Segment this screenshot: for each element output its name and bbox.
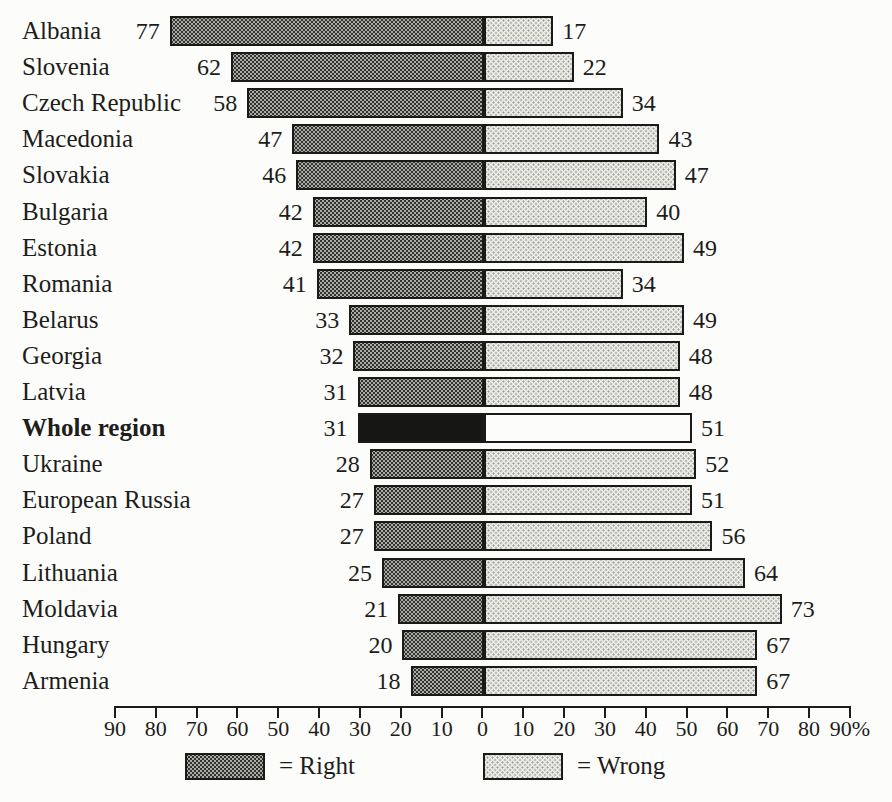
category-label: Georgia — [22, 341, 102, 371]
right-value: 47 — [685, 160, 709, 190]
legend-wrong-label: = Wrong — [577, 752, 665, 780]
left-bar — [398, 594, 484, 624]
category-label: Belarus — [22, 305, 98, 335]
right-value: 67 — [766, 666, 790, 696]
left-value: 31 — [278, 377, 348, 407]
right-value: 48 — [689, 377, 713, 407]
left-value: 42 — [233, 233, 303, 263]
legend-item-wrong: = Wrong — [483, 752, 665, 780]
left-bar — [170, 16, 484, 46]
left-bar — [349, 305, 484, 335]
right-value: 64 — [754, 558, 778, 588]
left-value: 27 — [294, 521, 364, 551]
left-value: 77 — [90, 16, 160, 46]
left-value: 41 — [237, 269, 307, 299]
category-label: Moldavia — [22, 594, 118, 624]
left-bar — [292, 124, 484, 154]
left-value: 62 — [151, 52, 221, 82]
category-label: Bulgaria — [22, 197, 108, 227]
category-label: Lithuania — [22, 558, 118, 588]
left-value: 33 — [269, 305, 339, 335]
right-bar — [484, 594, 782, 624]
legend-item-right: = Right — [185, 752, 355, 780]
right-bar — [484, 377, 680, 407]
legend-wrong-swatch — [483, 753, 563, 780]
left-bar — [353, 341, 484, 371]
left-bar — [231, 52, 484, 82]
left-value: 25 — [302, 558, 372, 588]
category-label: Macedonia — [22, 124, 133, 154]
legend-right-swatch — [185, 753, 265, 780]
left-value: 20 — [322, 630, 392, 660]
left-bar — [374, 485, 484, 515]
right-bar — [484, 233, 684, 263]
right-bar — [484, 52, 574, 82]
left-value: 21 — [318, 594, 388, 624]
right-bar — [484, 666, 757, 696]
right-value: 43 — [668, 124, 692, 154]
left-bar — [402, 630, 484, 660]
left-bar — [247, 88, 484, 118]
left-bar — [374, 521, 484, 551]
category-label: Romania — [22, 269, 112, 299]
left-bar — [313, 197, 484, 227]
category-label: European Russia — [22, 485, 191, 515]
right-bar — [484, 413, 692, 443]
diverging-bar-chart: Albania7717Slovenia6222Czech Republic583… — [0, 0, 892, 802]
left-bar — [411, 666, 484, 696]
right-value: 49 — [693, 305, 717, 335]
left-bar — [382, 558, 484, 588]
right-value: 34 — [632, 88, 656, 118]
right-value: 56 — [721, 521, 745, 551]
left-value: 46 — [216, 160, 286, 190]
right-bar — [484, 197, 647, 227]
left-value: 47 — [212, 124, 282, 154]
right-bar — [484, 341, 680, 371]
left-value: 58 — [167, 88, 237, 118]
left-value: 42 — [233, 197, 303, 227]
left-bar — [358, 377, 484, 407]
category-label: Czech Republic — [22, 88, 181, 118]
right-bar — [484, 558, 745, 588]
right-bar — [484, 88, 623, 118]
right-value: 51 — [701, 485, 725, 515]
right-value: 40 — [656, 197, 680, 227]
right-bar — [484, 269, 623, 299]
right-value: 48 — [689, 341, 713, 371]
axis-tick-label: 90% — [815, 717, 885, 741]
left-value: 32 — [273, 341, 343, 371]
right-bar — [484, 521, 712, 551]
left-bar — [370, 449, 484, 479]
right-bar — [484, 449, 696, 479]
right-value: 34 — [632, 269, 656, 299]
right-bar — [484, 485, 692, 515]
category-label: Latvia — [22, 377, 86, 407]
right-bar — [484, 630, 757, 660]
right-value: 17 — [562, 16, 586, 46]
right-bar — [484, 124, 659, 154]
left-bar — [317, 269, 484, 299]
left-bar — [313, 233, 484, 263]
left-value: 27 — [294, 485, 364, 515]
left-value: 28 — [290, 449, 360, 479]
right-bar — [484, 305, 684, 335]
category-label: Slovenia — [22, 52, 110, 82]
right-value: 67 — [766, 630, 790, 660]
category-label: Whole region — [22, 413, 165, 443]
right-value: 52 — [705, 449, 729, 479]
right-bar — [484, 16, 553, 46]
category-label: Slovakia — [22, 160, 110, 190]
right-value: 49 — [693, 233, 717, 263]
category-label: Ukraine — [22, 449, 103, 479]
category-label: Estonia — [22, 233, 97, 263]
right-value: 22 — [583, 52, 607, 82]
right-value: 51 — [701, 413, 725, 443]
left-bar — [358, 413, 484, 443]
category-label: Hungary — [22, 630, 109, 660]
left-value: 31 — [278, 413, 348, 443]
left-value: 18 — [331, 666, 401, 696]
category-label: Armenia — [22, 666, 109, 696]
category-label: Poland — [22, 521, 91, 551]
legend-right-label: = Right — [279, 752, 355, 780]
right-value: 73 — [791, 594, 815, 624]
